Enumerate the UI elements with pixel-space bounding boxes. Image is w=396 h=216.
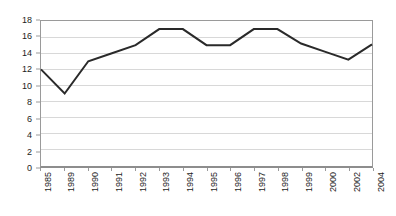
x-tick-mark (373, 168, 374, 171)
plot-area (40, 20, 373, 168)
x-tick-mark (159, 168, 160, 171)
y-tick-mark (36, 102, 40, 103)
x-tick-label: 1990 (91, 172, 100, 192)
y-tick-label: 18 (22, 16, 32, 25)
x-tick-label: 2002 (353, 172, 362, 192)
y-tick-label: 16 (22, 32, 32, 41)
x-tick-label: 1998 (281, 172, 290, 192)
x-tick-label: 1993 (162, 172, 171, 192)
x-tick-mark (230, 168, 231, 171)
x-tick-mark (111, 168, 112, 171)
series-line (41, 29, 372, 93)
y-tick-mark (36, 20, 40, 21)
y-tick-label: 12 (22, 65, 32, 74)
y-tick-mark (36, 118, 40, 119)
x-tick-mark (207, 168, 208, 171)
x-tick-label: 1991 (115, 172, 124, 192)
y-tick-mark (36, 151, 40, 152)
y-tick-label: 0 (27, 164, 32, 173)
y-tick-label: 14 (22, 48, 32, 57)
y-tick-mark (36, 36, 40, 37)
y-tick-mark (36, 168, 40, 169)
y-tick-label: 4 (27, 131, 32, 140)
y-tick-mark (36, 85, 40, 86)
y-tick-mark (36, 52, 40, 53)
x-tick-label: 2004 (377, 172, 386, 192)
y-tick-mark (36, 135, 40, 136)
y-tick-label: 6 (27, 114, 32, 123)
x-tick-label: 1997 (258, 172, 267, 192)
y-tick-label: 8 (27, 98, 32, 107)
y-axis: 024681012141618 (0, 20, 36, 168)
x-tick-label: 1989 (67, 172, 76, 192)
y-tick-label: 2 (27, 147, 32, 156)
x-tick-mark (183, 168, 184, 171)
x-tick-mark (278, 168, 279, 171)
y-tick-label: 10 (22, 81, 32, 90)
x-axis: 1985198919901991199219931994199519961997… (40, 170, 373, 216)
x-tick-mark (254, 168, 255, 171)
x-tick-mark (349, 168, 350, 171)
x-tick-mark (40, 168, 41, 171)
x-tick-label: 1992 (139, 172, 148, 192)
x-tick-mark (325, 168, 326, 171)
y-tick-mark (36, 69, 40, 70)
x-tick-label: 1996 (234, 172, 243, 192)
x-tick-mark (135, 168, 136, 171)
x-tick-label: 1994 (186, 172, 195, 192)
x-tick-label: 1995 (210, 172, 219, 192)
x-tick-mark (88, 168, 89, 171)
data-series-line (41, 21, 372, 166)
x-tick-mark (302, 168, 303, 171)
x-tick-label: 2000 (329, 172, 338, 192)
x-tick-label: 1999 (305, 172, 314, 192)
x-tick-mark (64, 168, 65, 171)
line-chart: 024681012141618 198519891990199119921993… (0, 0, 396, 216)
x-tick-label: 1985 (44, 172, 53, 192)
